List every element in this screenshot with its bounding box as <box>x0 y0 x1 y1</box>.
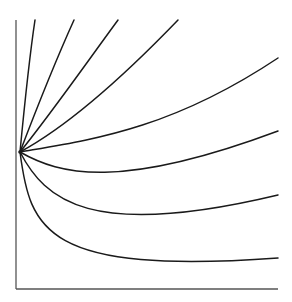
curve-3 <box>20 20 118 152</box>
curve-group <box>20 20 278 262</box>
curve-7 <box>20 152 278 215</box>
origin-point <box>18 150 22 154</box>
curve-5 <box>20 58 278 152</box>
curve-2 <box>20 20 74 152</box>
curve-6 <box>20 131 278 172</box>
curve-4 <box>20 20 178 152</box>
curve-family-diagram <box>0 0 292 302</box>
